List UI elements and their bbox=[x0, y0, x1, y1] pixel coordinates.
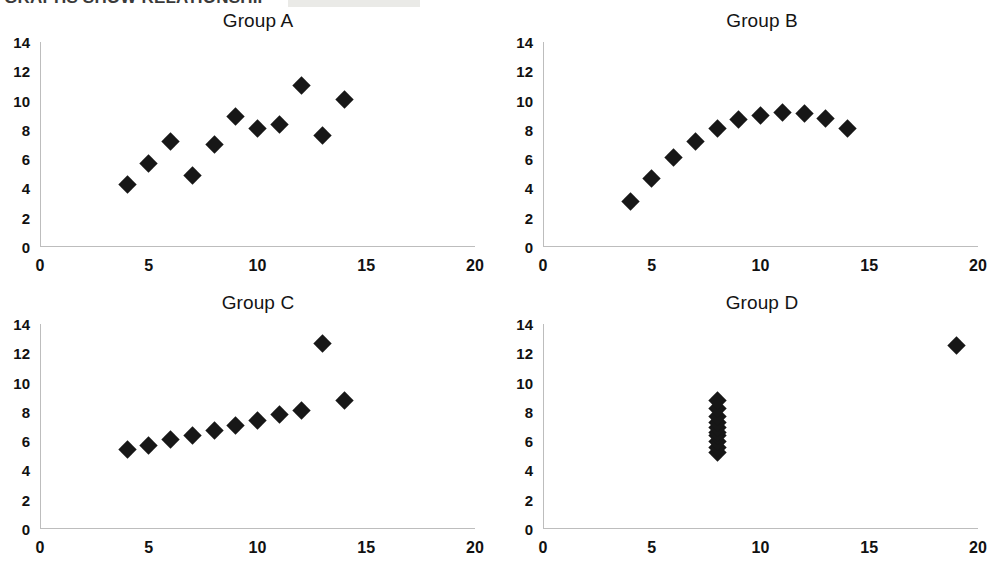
x-axis-tick-label: 5 bbox=[632, 258, 672, 274]
x-axis-tick-label: 0 bbox=[20, 258, 60, 274]
y-axis-tick-label: 2 bbox=[505, 211, 533, 226]
data-point-marker bbox=[270, 115, 288, 133]
y-axis-tick-label: 8 bbox=[2, 123, 30, 138]
data-point-marker bbox=[227, 416, 245, 434]
chart-title: Group A bbox=[8, 10, 508, 32]
y-axis-tick-label: 0 bbox=[2, 240, 30, 255]
y-axis-tick-label: 2 bbox=[2, 493, 30, 508]
data-point-marker bbox=[643, 169, 661, 187]
x-axis-tick-label: 15 bbox=[346, 540, 386, 556]
chart-title: Group C bbox=[8, 292, 508, 314]
y-axis-tick-label: 8 bbox=[505, 123, 533, 138]
y-axis-tick-label: 10 bbox=[2, 94, 30, 109]
y-axis-tick-label: 0 bbox=[2, 522, 30, 537]
x-axis-tick-label: 15 bbox=[849, 540, 889, 556]
plot-area: 0246810121405101520 bbox=[40, 324, 475, 529]
y-axis-tick-label: 10 bbox=[505, 376, 533, 391]
y-axis-tick-label: 10 bbox=[505, 94, 533, 109]
chart-title: Group B bbox=[513, 10, 1007, 32]
y-axis-tick-label: 2 bbox=[2, 211, 30, 226]
page-banner: GRAPHS SHOW RELATIONSHIP bbox=[0, 0, 1007, 8]
y-axis-tick-label: 6 bbox=[505, 152, 533, 167]
data-point-marker bbox=[730, 110, 748, 128]
data-point-marker bbox=[621, 192, 639, 210]
x-axis-tick-label: 0 bbox=[523, 540, 563, 556]
x-axis-line bbox=[543, 528, 978, 529]
y-axis-line bbox=[40, 324, 41, 529]
data-point-marker bbox=[773, 103, 791, 121]
x-axis-tick-label: 20 bbox=[958, 258, 998, 274]
x-axis-tick-label: 15 bbox=[849, 258, 889, 274]
plot-area: 0246810121405101520 bbox=[543, 42, 978, 247]
y-axis-line bbox=[543, 324, 544, 529]
data-point-marker bbox=[118, 175, 136, 193]
y-axis-tick-label: 14 bbox=[505, 317, 533, 332]
data-point-marker bbox=[140, 436, 158, 454]
y-axis-tick-label: 6 bbox=[2, 434, 30, 449]
data-point-marker bbox=[947, 337, 965, 355]
y-axis-tick-label: 12 bbox=[505, 346, 533, 361]
x-axis-tick-label: 20 bbox=[958, 540, 998, 556]
data-point-marker bbox=[838, 119, 856, 137]
x-axis-tick-label: 0 bbox=[20, 540, 60, 556]
x-axis-tick-label: 10 bbox=[238, 258, 278, 274]
data-point-marker bbox=[118, 441, 136, 459]
y-axis-tick-label: 0 bbox=[505, 522, 533, 537]
x-axis-tick-label: 20 bbox=[455, 258, 495, 274]
x-axis-line bbox=[40, 246, 475, 247]
x-axis-tick-label: 5 bbox=[632, 540, 672, 556]
chart-panel-group-a: Group A0246810121405101520 bbox=[0, 8, 503, 290]
x-axis-tick-label: 5 bbox=[129, 258, 169, 274]
x-axis-tick-label: 10 bbox=[741, 540, 781, 556]
y-axis-tick-label: 0 bbox=[505, 240, 533, 255]
data-point-marker bbox=[140, 154, 158, 172]
y-axis-tick-label: 8 bbox=[2, 405, 30, 420]
y-axis-tick-label: 14 bbox=[2, 317, 30, 332]
x-axis-line bbox=[40, 528, 475, 529]
y-axis-tick-label: 12 bbox=[2, 64, 30, 79]
y-axis-line bbox=[40, 42, 41, 247]
banner-headline: GRAPHS SHOW RELATIONSHIP bbox=[4, 0, 269, 8]
plot-area: 0246810121405101520 bbox=[543, 324, 978, 529]
data-point-marker bbox=[708, 119, 726, 137]
data-point-marker bbox=[205, 422, 223, 440]
x-axis-tick-label: 10 bbox=[741, 258, 781, 274]
y-axis-tick-label: 6 bbox=[505, 434, 533, 449]
data-point-marker bbox=[664, 148, 682, 166]
y-axis-tick-label: 4 bbox=[2, 181, 30, 196]
y-axis-tick-label: 4 bbox=[505, 463, 533, 478]
x-axis-line bbox=[543, 246, 978, 247]
data-point-marker bbox=[270, 406, 288, 424]
x-axis-tick-label: 20 bbox=[455, 540, 495, 556]
chart-panel-group-d: Group D0246810121405101520 bbox=[503, 290, 1006, 572]
y-axis-tick-label: 14 bbox=[2, 35, 30, 50]
y-axis-tick-label: 12 bbox=[505, 64, 533, 79]
chart-title: Group D bbox=[513, 292, 1007, 314]
data-point-marker bbox=[183, 166, 201, 184]
data-point-marker bbox=[314, 127, 332, 145]
data-point-marker bbox=[161, 430, 179, 448]
chart-panel-group-c: Group C0246810121405101520 bbox=[0, 290, 503, 572]
y-axis-tick-label: 4 bbox=[2, 463, 30, 478]
data-point-marker bbox=[335, 391, 353, 409]
data-point-marker bbox=[817, 109, 835, 127]
banner-highlight bbox=[288, 0, 420, 7]
data-point-marker bbox=[292, 77, 310, 95]
data-point-marker bbox=[248, 411, 266, 429]
x-axis-tick-label: 5 bbox=[129, 540, 169, 556]
chart-panel-group-b: Group B0246810121405101520 bbox=[503, 8, 1006, 290]
data-point-marker bbox=[248, 119, 266, 137]
data-point-marker bbox=[161, 132, 179, 150]
chart-grid: Group A0246810121405101520Group B0246810… bbox=[0, 8, 1007, 572]
data-point-marker bbox=[292, 401, 310, 419]
y-axis-tick-label: 6 bbox=[2, 152, 30, 167]
x-axis-tick-label: 0 bbox=[523, 258, 563, 274]
data-point-marker bbox=[335, 90, 353, 108]
y-axis-tick-label: 14 bbox=[505, 35, 533, 50]
y-axis-tick-label: 8 bbox=[505, 405, 533, 420]
data-point-marker bbox=[751, 106, 769, 124]
y-axis-tick-label: 4 bbox=[505, 181, 533, 196]
data-point-marker bbox=[686, 132, 704, 150]
data-point-marker bbox=[205, 135, 223, 153]
plot-area: 0246810121405101520 bbox=[40, 42, 475, 247]
